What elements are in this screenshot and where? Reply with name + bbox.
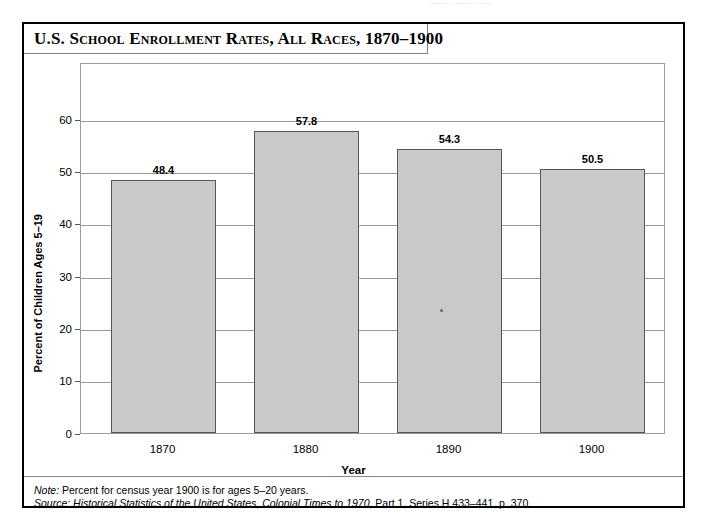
x-tick-label-1900: 1900 xyxy=(539,443,644,455)
y-tick-mark-60 xyxy=(75,120,80,121)
scan-speck xyxy=(440,309,443,312)
source-citation: , Part 1, Series H 433–441, p. 370. xyxy=(369,497,531,509)
y-tick-mark-40 xyxy=(75,224,80,225)
bar-value-1880: 57.8 xyxy=(254,115,359,127)
figure-frame: U.S. School Enrollment Rates, All Races,… xyxy=(22,22,685,508)
bar-1880[interactable] xyxy=(254,131,359,433)
chart-region: Percent of Children Ages 5–19 48.4 57.8 … xyxy=(24,54,683,476)
y-tick-mark-10 xyxy=(75,381,80,382)
source-line: Source: Historical Statistics of the Uni… xyxy=(34,497,674,510)
note-line: Note: Percent for census year 1900 is fo… xyxy=(34,484,674,497)
bar-value-1900: 50.5 xyxy=(540,153,645,165)
y-tick-label-20: 20 xyxy=(38,323,72,335)
x-tick-label-1880: 1880 xyxy=(253,443,358,455)
y-tick-mark-0 xyxy=(75,434,80,435)
bars-layer xyxy=(81,64,664,433)
y-tick-label-50: 50 xyxy=(38,166,72,178)
bar-1900[interactable] xyxy=(540,169,645,433)
y-tick-label-40: 40 xyxy=(38,218,72,230)
source-label: Source: xyxy=(34,497,70,509)
note-text: Percent for census year 1900 is for ages… xyxy=(59,484,308,496)
y-tick-mark-50 xyxy=(75,172,80,173)
x-axis-title: Year xyxy=(24,464,683,476)
note-label: Note: xyxy=(34,484,59,496)
bar-1870[interactable] xyxy=(111,180,216,433)
bar-value-1870: 48.4 xyxy=(111,164,216,176)
plot-area: 48.4 57.8 54.3 50.5 xyxy=(80,63,665,434)
title-box: U.S. School Enrollment Rates, All Races,… xyxy=(24,24,428,54)
y-tick-label-30: 30 xyxy=(38,271,72,283)
bar-value-1890: 54.3 xyxy=(397,133,502,145)
footer-divider xyxy=(24,476,683,477)
y-tick-mark-20 xyxy=(75,329,80,330)
y-tick-label-10: 10 xyxy=(38,375,72,387)
source-title: Historical Statistics of the United Stat… xyxy=(70,497,369,509)
footnotes: Note: Percent for census year 1900 is fo… xyxy=(34,484,674,510)
y-tick-label-0: 0 xyxy=(38,428,72,440)
y-axis-title: Percent of Children Ages 5–19 xyxy=(32,214,44,373)
x-tick-label-1870: 1870 xyxy=(110,443,215,455)
scan-artifact-text-line: ____ ___ ___ xyxy=(430,0,610,4)
scan-artifact-text: ____ ___ ___ xyxy=(430,0,610,8)
x-tick-label-1890: 1890 xyxy=(396,443,501,455)
bar-1890[interactable] xyxy=(397,149,502,433)
page-title: U.S. School Enrollment Rates, All Races,… xyxy=(24,29,443,49)
y-tick-mark-30 xyxy=(75,277,80,278)
y-tick-label-60: 60 xyxy=(38,114,72,126)
